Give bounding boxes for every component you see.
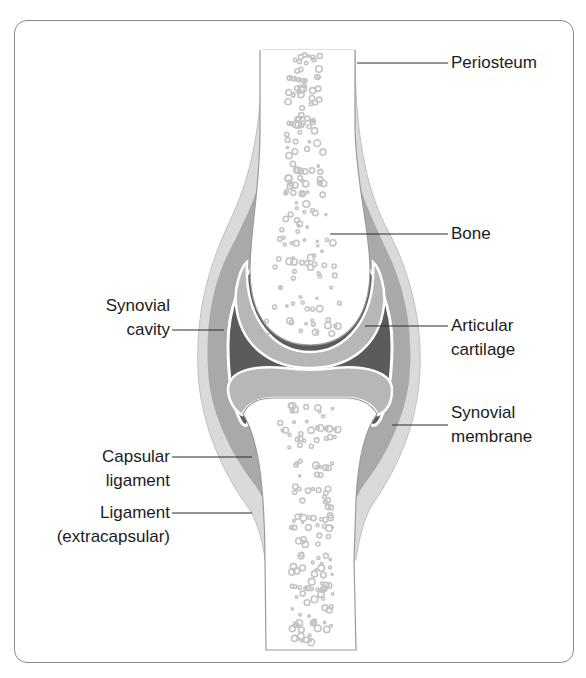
label-capsular-ligament-line1: Capsular: [102, 445, 170, 469]
label-articular-cartilage: Articular cartilage: [451, 314, 515, 362]
label-synovial-cavity-line2: cavity: [106, 318, 170, 342]
label-synovial-membrane-line1: Synovial: [451, 401, 532, 425]
label-synovial-cavity-line1: Synovial: [106, 294, 170, 318]
label-synovial-cavity: Synovial cavity: [106, 294, 170, 342]
label-capsular-ligament: Capsular ligament: [102, 445, 170, 493]
label-synovial-membrane-line2: membrane: [451, 425, 532, 449]
label-ligament-extracapsular-line2: (extracapsular): [57, 525, 170, 549]
upper-bone: [250, 50, 370, 345]
label-bone: Bone: [451, 222, 491, 246]
label-ligament-extracapsular-line1: Ligament: [57, 501, 170, 525]
label-capsular-ligament-line2: ligament: [102, 469, 170, 493]
label-periosteum: Periosteum: [451, 51, 537, 75]
label-ligament-extracapsular: Ligament (extracapsular): [57, 501, 170, 549]
label-synovial-membrane: Synovial membrane: [451, 401, 532, 449]
label-articular-cartilage-line1: Articular: [451, 314, 515, 338]
label-articular-cartilage-line2: cartilage: [451, 338, 515, 362]
